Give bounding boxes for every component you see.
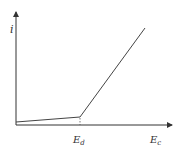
x-axis-label: Ec	[149, 134, 161, 147]
knee-tick-label: Ed	[72, 134, 85, 147]
data-line	[16, 28, 145, 122]
chart: i Ed Ec	[0, 0, 176, 155]
y-axis-label: i	[10, 23, 14, 36]
